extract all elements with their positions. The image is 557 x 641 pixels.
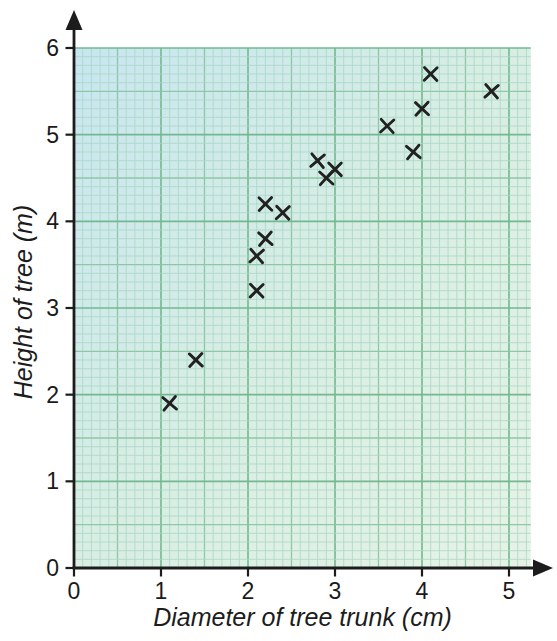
y-tick-label-1: 1 bbox=[46, 468, 59, 494]
scatter-chart-canvas: 0123456012345 bbox=[0, 0, 557, 641]
x-tick-label-4: 4 bbox=[416, 578, 429, 604]
scatter-plot-figure: 0123456012345 Height of tree (m) Diamete… bbox=[0, 0, 557, 641]
y-tick-label-6: 6 bbox=[46, 35, 59, 61]
x-tick-label-2: 2 bbox=[242, 578, 255, 604]
x-tick-label-5: 5 bbox=[503, 578, 516, 604]
x-tick-label-3: 3 bbox=[329, 578, 342, 604]
y-tick-label-3: 3 bbox=[46, 295, 59, 321]
x-tick-label-0: 0 bbox=[68, 578, 81, 604]
grid-lines bbox=[74, 48, 531, 568]
x-tick-label-1: 1 bbox=[155, 578, 168, 604]
y-tick-label-0: 0 bbox=[46, 555, 59, 581]
y-axis-arrowhead bbox=[66, 10, 83, 30]
y-tick-label-4: 4 bbox=[46, 208, 59, 234]
y-tick-label-2: 2 bbox=[46, 382, 59, 408]
y-tick-label-5: 5 bbox=[46, 122, 59, 148]
x-axis-arrowhead bbox=[533, 560, 553, 577]
